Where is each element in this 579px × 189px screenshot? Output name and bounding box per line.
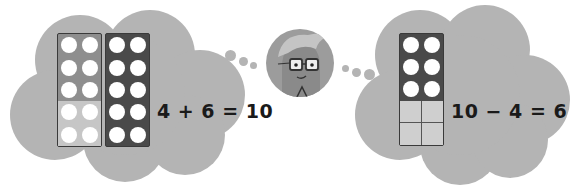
counter xyxy=(403,59,419,75)
counter xyxy=(82,104,98,120)
counter xyxy=(130,82,146,98)
counter xyxy=(403,37,419,53)
counter xyxy=(109,127,125,143)
teacher-avatar xyxy=(264,27,336,99)
counter xyxy=(61,82,77,98)
counter xyxy=(61,60,77,76)
empty-cell xyxy=(422,123,444,145)
subtraction-equation: 10 − 4 = 6 xyxy=(451,100,567,122)
thought-dot xyxy=(225,50,236,61)
counter xyxy=(82,60,98,76)
counter xyxy=(61,37,77,53)
empty-cell xyxy=(400,101,422,123)
empty-cell xyxy=(422,101,444,123)
counter xyxy=(130,127,146,143)
thought-dot xyxy=(239,57,248,66)
counter xyxy=(61,127,77,143)
thought-dot xyxy=(250,62,257,69)
counter xyxy=(82,37,98,53)
counter xyxy=(130,37,146,53)
counter xyxy=(130,104,146,120)
counter xyxy=(82,82,98,98)
counter xyxy=(424,59,440,75)
ten-frame-full xyxy=(105,33,150,147)
addition-equation: 4 + 6 = 10 xyxy=(157,100,273,122)
counter xyxy=(109,104,125,120)
counter xyxy=(82,127,98,143)
counter xyxy=(61,104,77,120)
counter xyxy=(130,60,146,76)
ten-frame-partial xyxy=(399,33,444,146)
counter xyxy=(109,60,125,76)
empty-cell xyxy=(400,123,422,145)
counter xyxy=(403,81,419,97)
counter xyxy=(424,37,440,53)
counter xyxy=(424,81,440,97)
counter xyxy=(109,37,125,53)
counter xyxy=(109,82,125,98)
ten-frame-mixed xyxy=(57,33,102,147)
right-thought-cloud xyxy=(340,0,579,189)
